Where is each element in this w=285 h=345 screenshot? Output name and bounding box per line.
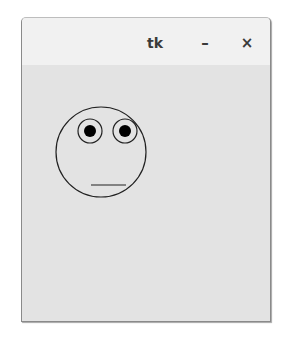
left-eye-icon — [78, 119, 102, 143]
close-button[interactable]: × — [236, 32, 258, 54]
face-drawing — [22, 65, 271, 322]
window-title: tk — [22, 35, 270, 51]
face-outline-icon — [56, 107, 146, 197]
minimize-button[interactable]: – — [194, 32, 216, 54]
tk-window: tk – × — [21, 17, 271, 322]
drawing-canvas[interactable] — [22, 65, 270, 321]
right-eye-icon — [113, 119, 137, 143]
title-bar[interactable]: tk – × — [22, 18, 270, 66]
